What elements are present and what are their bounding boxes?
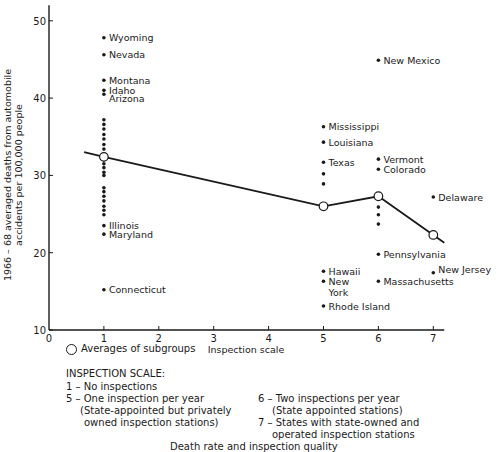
point-labels: WyomingNevadaMontanaIdahoArizonaIllinois… xyxy=(109,32,491,311)
y-tick-label: 50 xyxy=(33,16,46,27)
y-tick-label: 20 xyxy=(33,248,46,259)
scale-item-7-detail: operated inspection stations xyxy=(258,429,419,441)
inspection-scale-title: INSPECTION SCALE: xyxy=(66,368,165,380)
data-point xyxy=(377,213,381,217)
point-label: Colorado xyxy=(383,164,426,175)
x-tick-label: 0 xyxy=(46,333,52,344)
data-point xyxy=(102,232,106,236)
scale-item-6-detail: (State appointed stations) xyxy=(258,405,419,417)
data-point xyxy=(102,174,106,178)
svg-text:accidents per 100,000 people: accidents per 100,000 people xyxy=(13,104,24,246)
data-point xyxy=(102,137,106,141)
data-point xyxy=(102,205,106,209)
data-point xyxy=(102,89,106,93)
data-point xyxy=(377,157,381,161)
data-point xyxy=(377,205,381,209)
scale-item-5: 5 – One inspection per year xyxy=(66,393,231,405)
average-marker xyxy=(374,192,383,201)
data-point xyxy=(102,171,106,175)
y-tick-label: 40 xyxy=(33,93,46,104)
x-tick-label: 3 xyxy=(211,333,217,344)
data-point xyxy=(102,208,106,212)
data-point xyxy=(377,167,381,171)
point-label: Rhode Island xyxy=(329,301,391,312)
x-tick-label: 7 xyxy=(430,333,436,344)
figure-caption: Death rate and inspection quality xyxy=(170,441,338,452)
data-point xyxy=(322,269,326,273)
data-point xyxy=(322,140,326,144)
data-point xyxy=(377,222,381,226)
data-point xyxy=(322,304,326,308)
point-label: Louisiana xyxy=(329,137,374,148)
data-point xyxy=(377,280,381,284)
scale-item-5-detail: (State-appointed but privately xyxy=(66,405,231,417)
scale-item-7: 7 – States with state-owned and xyxy=(258,417,419,429)
x-axis-title: Inspection scale xyxy=(208,344,285,355)
data-point xyxy=(102,288,106,292)
data-point xyxy=(102,213,106,217)
legend-avg-label: Averages of subgroups xyxy=(81,343,195,355)
average-marker xyxy=(319,202,328,211)
data-point xyxy=(102,166,106,170)
data-point xyxy=(102,224,106,228)
data-point xyxy=(102,143,106,147)
data-point xyxy=(102,36,106,40)
point-label: Massachusetts xyxy=(383,276,453,287)
y-tick-label: 30 xyxy=(33,170,46,181)
data-point xyxy=(322,160,326,164)
data-point xyxy=(102,123,106,127)
y-tick-label: 10 xyxy=(33,325,46,336)
data-point xyxy=(102,147,106,151)
point-label: New Mexico xyxy=(383,55,440,66)
point-label: Nevada xyxy=(109,49,145,60)
point-label: Connecticut xyxy=(109,284,166,295)
data-point xyxy=(102,79,106,83)
scale-item-5-detail: owned inspection stations) xyxy=(66,417,231,429)
data-point xyxy=(322,280,326,284)
data-point xyxy=(102,194,106,198)
data-point xyxy=(322,172,326,176)
data-point xyxy=(432,271,436,275)
point-label: York xyxy=(328,287,349,298)
average-marker xyxy=(100,153,109,162)
data-point xyxy=(102,133,106,137)
legend: Averages of subgroups xyxy=(66,343,195,355)
scale-item-6: 6 – Two inspections per year xyxy=(258,393,419,405)
data-point xyxy=(377,252,381,256)
inspection-scale-right: 6 – Two inspections per year (State appo… xyxy=(258,393,419,441)
point-label: Wyoming xyxy=(109,32,154,43)
data-point xyxy=(102,127,106,131)
average-marker xyxy=(429,231,438,240)
point-label: Maryland xyxy=(109,229,153,240)
data-point xyxy=(322,182,326,186)
data-point xyxy=(102,92,106,96)
point-label: Delaware xyxy=(438,192,483,203)
svg-text:1966 – 68 averaged deaths from: 1966 – 68 averaged deaths from automobil… xyxy=(2,69,13,281)
point-label: New xyxy=(329,276,350,287)
point-label: New Jersey xyxy=(438,264,491,275)
data-point xyxy=(102,162,106,166)
data-point xyxy=(322,125,326,129)
x-tick-label: 4 xyxy=(265,333,271,344)
point-label: Mississippi xyxy=(329,121,380,132)
data-point xyxy=(102,118,106,122)
point-label: Pennsylvania xyxy=(383,249,445,260)
y-axis-title: 1966 – 68 averaged deaths from automobil… xyxy=(2,69,24,281)
data-point xyxy=(432,195,436,199)
open-circle-icon xyxy=(66,344,77,355)
scale-item-1: 1 – No inspections xyxy=(66,381,231,393)
inspection-scale-left: 1 – No inspections 5 – One inspection pe… xyxy=(66,381,231,429)
data-point xyxy=(102,199,106,203)
x-tick-label: 6 xyxy=(375,333,381,344)
data-point xyxy=(102,53,106,57)
point-label: Arizona xyxy=(109,93,145,104)
point-label: Texas xyxy=(328,157,355,168)
x-tick-label: 5 xyxy=(320,333,326,344)
data-point xyxy=(102,186,106,190)
data-point xyxy=(102,190,106,194)
data-point xyxy=(377,58,381,62)
